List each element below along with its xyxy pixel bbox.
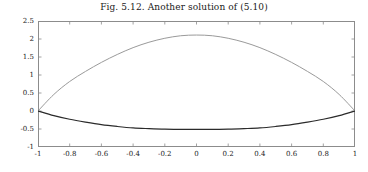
x-tick-label: 0.4: [254, 150, 265, 158]
x-tick-label: -0.2: [158, 150, 172, 158]
x-tick-label: 0: [194, 150, 198, 158]
y-tick-label: 2.5: [23, 17, 34, 25]
y-tick-label: -0.5: [21, 125, 35, 133]
x-tick-label: -1: [35, 150, 42, 158]
y-tick-label: 0.5: [23, 89, 34, 97]
plot-curves: [38, 21, 355, 147]
x-tick-label: -0.8: [63, 150, 77, 158]
series-lower-solution: [38, 111, 355, 129]
x-tick-label: 0.8: [318, 150, 329, 158]
x-tick-label: 0.6: [286, 150, 297, 158]
x-tick-label: -0.6: [95, 150, 109, 158]
y-tick-label: -1: [27, 143, 34, 151]
series-upper-solution: [38, 35, 355, 111]
x-tick-label: 1: [353, 150, 357, 158]
x-tick-label: -0.4: [126, 150, 140, 158]
y-tick-label: 1: [30, 71, 34, 79]
y-axis-tick-labels: -1-0.500.511.522.5: [0, 21, 34, 147]
x-tick-label: 0.2: [223, 150, 234, 158]
y-tick-label: 2: [30, 35, 34, 43]
y-tick-label: 0: [30, 107, 34, 115]
y-tick-label: 1.5: [23, 53, 34, 61]
figure-caption: Fig. 5.12. Another solution of (5.10): [0, 2, 368, 12]
x-axis-tick-labels: -1-0.8-0.6-0.4-0.200.20.40.60.81: [38, 150, 355, 164]
chart-svg: [38, 21, 355, 147]
figure-container: Fig. 5.12. Another solution of (5.10) -1…: [0, 0, 368, 172]
